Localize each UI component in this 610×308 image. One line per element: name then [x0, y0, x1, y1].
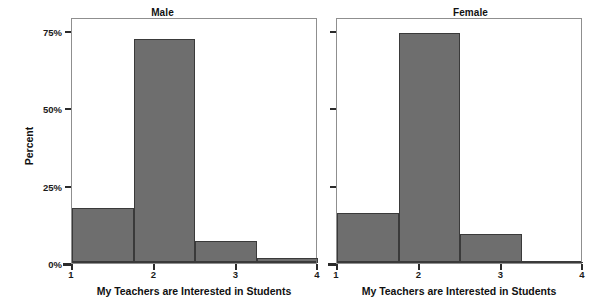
x-tick-label-3-female: 3 — [498, 269, 503, 280]
male-baseline — [72, 261, 316, 263]
male-panel-title: Male — [8, 7, 317, 18]
female-panel: Female 1 2 3 4 My Teachers are Intereste… — [325, 0, 610, 308]
x-tick-label-4-male: 4 — [314, 269, 319, 280]
bar-female-3 — [460, 234, 522, 263]
female-plot-box — [336, 18, 582, 264]
x-axis-title-male: My Teachers are Interested in Students — [61, 285, 327, 297]
male-panel: Male Percent 75% 50% 25% 0% 1 2 — [0, 0, 325, 308]
y-axis-title-male: Percent — [23, 116, 35, 176]
y-tick-label-50-male: 50% — [32, 104, 62, 115]
x-axis-title-female: My Teachers are Interested in Students — [326, 285, 592, 297]
x-tick-label-2-female: 2 — [416, 269, 421, 280]
bar-male-1 — [72, 208, 134, 263]
male-plot-box — [71, 18, 317, 264]
male-plot-area — [72, 19, 316, 263]
bar-male-2 — [134, 39, 196, 263]
female-plot-area — [337, 19, 581, 263]
x-tick-label-3-male: 3 — [233, 269, 238, 280]
y-tick-label-75-male: 75% — [32, 27, 62, 38]
bar-female-2 — [399, 33, 461, 263]
bar-male-3 — [195, 241, 257, 263]
histogram-figure: Male Percent 75% 50% 25% 0% 1 2 — [0, 0, 610, 308]
y-tick-label-25-male: 25% — [32, 181, 62, 192]
female-baseline — [337, 261, 581, 263]
x-tick-label-4-female: 4 — [579, 269, 584, 280]
bar-female-1 — [337, 213, 399, 263]
x-tick-label-1-female: 1 — [333, 269, 338, 280]
x-tick-label-1-male: 1 — [68, 269, 73, 280]
x-tick-label-2-male: 2 — [151, 269, 156, 280]
female-panel-title: Female — [336, 7, 605, 18]
y-tick-label-0-male: 0% — [32, 259, 62, 270]
